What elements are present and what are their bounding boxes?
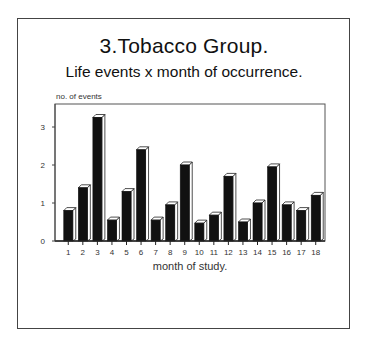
bar-side [87,185,90,241]
bar [238,219,250,241]
x-ticks: 123456789101112131415161718 [66,241,321,257]
bar [64,208,76,241]
bar-front [151,220,160,241]
bar-side [204,220,207,241]
x-tick-label: 11 [210,248,219,257]
bar [137,147,149,241]
bar-side [306,208,309,241]
bar-front [195,223,204,241]
bar-side [73,208,76,241]
bar-side [175,202,178,241]
bar-front [297,211,306,241]
bars [64,115,323,242]
bar [122,189,134,241]
bar-side [102,115,105,242]
x-tick-label: 2 [81,248,86,257]
bar-side [291,202,294,241]
bar [195,220,207,241]
x-tick-label: 16 [282,248,291,257]
bar-side [262,200,265,241]
bar-side [277,164,280,241]
bar-side [218,212,221,241]
x-tick-label: 14 [253,248,262,257]
bar [107,217,119,241]
y-ticks: 0123 [41,123,55,246]
bar-side [146,147,149,241]
bar [151,217,163,241]
bar-side [160,217,163,241]
x-tick-label: 12 [224,248,233,257]
x-tick-label: 3 [95,248,100,257]
bar-side [131,189,134,241]
x-tick-label: 9 [182,248,187,257]
bar-front [122,192,131,241]
bar-front [224,176,233,241]
bar-front [64,211,73,241]
bar [253,200,265,241]
bar-side [189,162,192,241]
y-tick-label: 2 [41,161,46,170]
x-tick-label: 8 [168,248,173,257]
y-tick-label: 3 [41,123,46,132]
x-tick-label: 17 [297,248,306,257]
bar-front [282,205,291,241]
bar [166,202,178,241]
bar [282,202,294,241]
bar [311,192,323,241]
bar-side [116,217,119,241]
bar [224,173,236,241]
y-tick-label: 1 [41,199,46,208]
x-tick-label: 10 [195,248,204,257]
x-tick-label: 13 [238,248,247,257]
bar [93,115,105,242]
x-tick-label: 18 [311,248,320,257]
bar [209,212,221,241]
bar-front [78,188,87,241]
bar-front [93,118,102,242]
bar-front [180,165,189,241]
y-axis-label: no. of events [56,92,102,101]
x-tick-label: 1 [66,248,71,257]
bar-side [233,173,236,241]
bar-side [320,192,323,241]
bar-front [137,150,146,241]
x-tick-label: 6 [139,248,144,257]
bar [78,185,90,241]
bar [268,164,280,241]
x-tick-label: 15 [268,248,277,257]
x-axis-label: month of study. [153,260,227,272]
bar [180,162,192,241]
x-tick-label: 7 [153,248,158,257]
x-tick-label: 4 [110,248,115,257]
bar-front [238,222,247,241]
bar-chart: no. of events 0123 123456789101112131415… [0,0,368,344]
bar-front [253,203,262,241]
x-tick-label: 5 [124,248,129,257]
bar [297,208,309,241]
bar-front [209,215,218,241]
bar-front [311,195,320,241]
bar-front [166,205,175,241]
bar-front [107,220,116,241]
bar-front [268,167,277,241]
bar-side [247,219,250,241]
y-tick-label: 0 [41,237,46,246]
